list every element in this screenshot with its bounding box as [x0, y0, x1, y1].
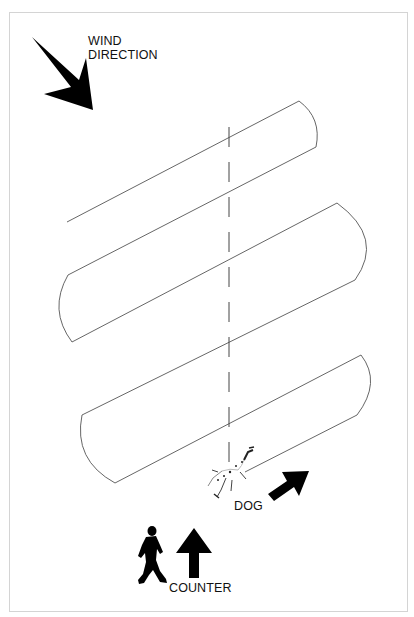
arrow-up-right-icon	[268, 471, 309, 501]
path-leg-4	[82, 280, 355, 415]
dog-icon	[208, 447, 254, 498]
path-leg-3	[72, 203, 337, 342]
path-turn-1	[299, 101, 317, 147]
search-pattern-diagram	[0, 0, 414, 617]
wind-label-line2: DIRECTION	[88, 48, 158, 62]
path-leg-6	[245, 415, 357, 472]
wind-label-line1: WIND	[88, 34, 158, 48]
counter-label: COUNTER	[169, 581, 232, 595]
dog-label: DOG	[234, 499, 263, 513]
path-leg-5	[115, 355, 361, 483]
path-turn-2	[59, 275, 72, 342]
walking-person-icon	[138, 526, 167, 584]
arrow-down-right-icon	[32, 37, 93, 110]
wind-direction-label: WIND DIRECTION	[88, 34, 158, 62]
path-leg-2	[68, 147, 316, 275]
arrow-up-icon	[176, 528, 212, 578]
path-leg-1	[67, 101, 299, 222]
path-turn-3	[337, 203, 367, 280]
search-path	[59, 101, 371, 483]
path-turn-5	[357, 355, 371, 415]
path-turn-4	[80, 415, 115, 483]
